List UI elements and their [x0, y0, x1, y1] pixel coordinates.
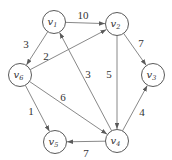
nodes-layer: v1v2v3v4v5v6	[9, 11, 165, 154]
edge-weight-v4-v1: 3	[85, 68, 91, 80]
node-v6: v6	[9, 64, 32, 87]
edge-weight-v4-v3: 4	[139, 106, 145, 118]
directed-graph: v1v2v3v4v5v6 10323576174	[0, 0, 172, 160]
node-v4: v4	[106, 130, 129, 153]
edge-weight-v2-v3: 7	[138, 37, 144, 49]
edge-v1-v2	[65, 22, 105, 23]
edge-v6-v4	[30, 81, 108, 134]
edge-v4-v1	[60, 33, 112, 131]
edge-weight-v4-v5: 7	[83, 147, 89, 159]
edge-v4-v5	[67, 141, 106, 142]
node-v1: v1	[43, 11, 66, 34]
edge-weight-v1-v6: 3	[23, 38, 29, 50]
edge-weight-v2-v4: 5	[106, 68, 112, 80]
edge-weight-v6-v2: 2	[43, 50, 49, 62]
node-v5: v5	[44, 131, 67, 154]
edge-weight-v1-v2: 10	[78, 9, 90, 21]
node-v2: v2	[106, 13, 129, 36]
edge-weight-v6-v4: 6	[60, 91, 66, 103]
node-v3: v3	[142, 64, 165, 87]
edge-weight-v6-v5: 1	[28, 105, 34, 117]
edges-layer	[25, 22, 147, 141]
